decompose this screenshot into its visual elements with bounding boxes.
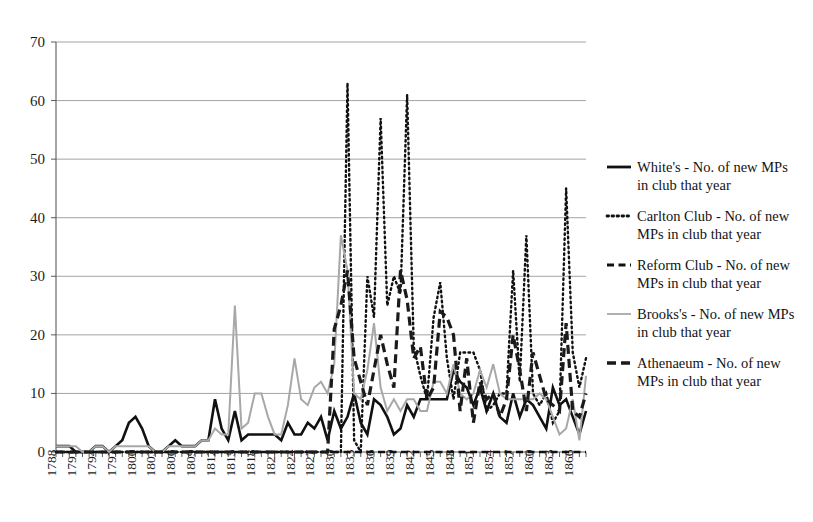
xtick-label: 1866	[561, 449, 576, 476]
xtick-label: 1833	[342, 449, 357, 476]
xtick-label: 1845	[422, 449, 437, 476]
legend-group: White's - No. of new MPsin club that yea…	[607, 159, 795, 389]
ytick-labels-group: 010203040506070	[30, 34, 45, 460]
legend-label-line1: White's - No. of new MPs	[637, 159, 788, 175]
xtick-label: 1839	[382, 449, 397, 476]
legend-label-line1: Athenaeum - No. of new	[637, 355, 781, 371]
legend-label-line1: Reform Club - No. of new	[637, 257, 791, 273]
chart-figure: 010203040506070 178817911794179718001803…	[0, 0, 813, 522]
ytick-label: 50	[30, 151, 45, 167]
line-chart-canvas: 010203040506070 178817911794179718001803…	[0, 0, 813, 522]
ytick-label: 70	[30, 34, 45, 50]
ytick-label: 40	[30, 210, 45, 226]
legend-label-line2: MPs in club that year	[637, 275, 761, 291]
legend-label-line2: in club that year	[637, 177, 731, 193]
xtick-label: 1860	[521, 449, 536, 476]
xtick-label: 1851	[461, 450, 476, 477]
xtick-label: 1848	[442, 449, 457, 476]
legend-label-line2: in club that year	[637, 324, 731, 340]
xtick-label: 1863	[541, 449, 556, 476]
xtick-label: 1857	[501, 449, 516, 476]
gridlines-group	[56, 42, 586, 393]
xtick-label: 1836	[362, 449, 377, 476]
legend-label-line2: MPs in club that year	[637, 373, 761, 389]
legend-label-line2: MPs in club that year	[637, 226, 761, 242]
legend-label-line1: Carlton Club - No. of new	[637, 208, 790, 224]
ytick-label: 10	[30, 385, 45, 401]
ytick-label: 60	[30, 93, 45, 109]
ytick-label: 20	[30, 327, 45, 343]
ytick-label: 30	[30, 268, 45, 284]
legend-label-line1: Brooks's - No. of new MPs	[637, 306, 795, 322]
xtick-label: 1842	[402, 450, 417, 477]
data-series-group	[56, 83, 586, 452]
xtick-label: 1854	[481, 449, 496, 476]
series-line-athenaeum	[56, 270, 586, 452]
